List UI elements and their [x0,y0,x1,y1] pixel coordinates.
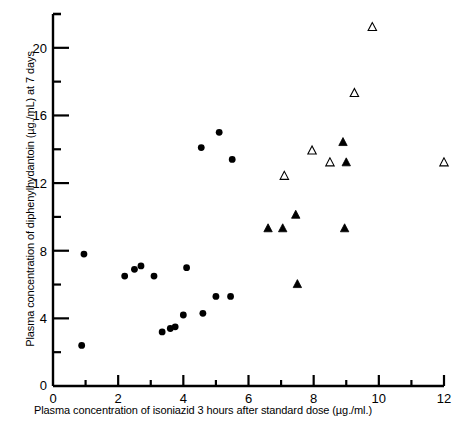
data-point-triangle-open [440,158,448,166]
x-axis-title: Plasma concentration of isoniazid 3 hour… [34,404,464,416]
data-point-circle [199,310,206,317]
y-zero-label: 0 [40,378,47,393]
scatter-plot-figure: 481216200024681012 Plasma concentration … [0,0,464,431]
data-point-triangle-open [308,146,316,154]
data-point-triangle-filled [279,224,287,232]
series-filled-triangle [264,138,351,288]
data-point-triangle-open [326,158,334,166]
data-point-triangle-filled [342,158,350,166]
data-point-circle [159,328,166,335]
data-point-triangle-open [280,171,288,179]
data-point-circle [229,156,236,163]
y-axis-title: Plasma concentration of diphenylhydantoi… [24,10,36,388]
data-point-circle [138,263,145,270]
data-point-triangle-filled [293,280,301,288]
series-open-triangle [280,23,448,180]
data-point-circle [121,273,128,280]
y-tick-label: 8 [40,244,47,259]
data-point-triangle-open [368,23,376,31]
data-point-circle [198,144,205,151]
data-point-triangle-filled [292,210,300,218]
plot-canvas: 481216200024681012 [0,0,464,431]
y-tick-label: 4 [40,311,47,326]
data-point-circle [180,312,187,319]
series-filled-circle [78,129,235,349]
data-point-triangle-filled [339,138,347,146]
data-point-circle [213,293,220,300]
data-point-circle [151,273,158,280]
data-point-triangle-filled [340,224,348,232]
data-point-triangle-open [350,89,358,97]
data-point-circle [216,129,223,136]
data-point-triangle-filled [264,224,272,232]
data-point-circle [81,251,88,258]
data-point-circle [78,342,85,349]
data-point-circle [172,323,179,330]
data-point-circle [227,293,234,300]
data-point-circle [183,264,190,271]
data-point-circle [131,266,138,273]
